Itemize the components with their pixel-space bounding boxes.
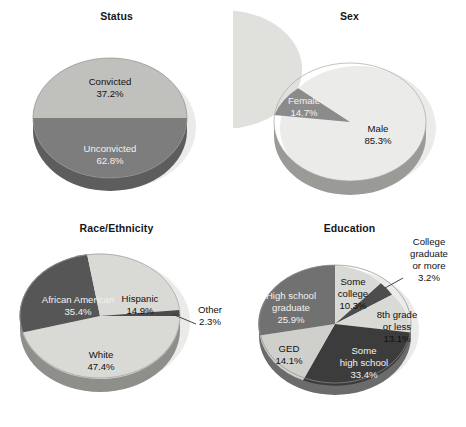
panel-race-ethnicity: Race/Ethnicity African American 35.4% Hi…	[0, 222, 233, 427]
label-some-college-line2: college	[338, 288, 368, 299]
label-male-name: Male	[368, 123, 389, 134]
label-hs-grad-line1: High school	[266, 290, 316, 301]
panel-education: Education Some college 10.3% College	[233, 222, 466, 427]
label-unconvicted-value: 62.8%	[96, 155, 124, 166]
sex-pie-svg: Female 14.7% Male 85.3%	[233, 10, 466, 213]
label-8th-grade-line1: 8th grade	[377, 309, 418, 320]
label-hs-grad-line2: graduate	[272, 302, 310, 313]
status-pie-svg: Convicted 37.2% Unconvicted 62.8%	[0, 10, 233, 213]
label-hispanic-value: 14.9%	[126, 305, 154, 316]
panel-status: Status Convicted 37.2% Unconvicted 62.8%	[0, 10, 233, 213]
label-female-name: Female	[288, 95, 320, 106]
label-college-grad-line2: graduate	[410, 248, 448, 259]
education-pie-svg: Some college 10.3% College graduate or m…	[233, 222, 466, 427]
label-college-grad-line3: or more	[412, 260, 445, 271]
label-convicted-name: Convicted	[89, 76, 132, 87]
label-some-hs-value: 33.4%	[350, 369, 378, 380]
label-unconvicted-name: Unconvicted	[84, 143, 137, 154]
label-male-value: 85.3%	[364, 135, 392, 146]
label-white-value: 47.4%	[87, 361, 115, 372]
label-white-name: White	[89, 349, 114, 360]
label-hs-grad-value: 25.9%	[277, 314, 305, 325]
label-some-hs-line1: Some	[351, 345, 376, 356]
label-8th-grade-value: 13.1%	[383, 333, 411, 344]
label-8th-grade-line2: or less	[383, 321, 411, 332]
label-ged-name: GED	[279, 343, 300, 354]
panel-sex: Sex Female 14.7% Male 85.3%	[233, 10, 466, 213]
label-hispanic-name: Hispanic	[122, 293, 159, 304]
label-african-american-value: 35.4%	[64, 306, 92, 317]
label-african-american-name: African American	[42, 294, 115, 305]
pie-chart-figure: Status Convicted 37.2% Unconvicted 62.8%…	[0, 0, 466, 427]
label-other-name: Other	[198, 304, 223, 315]
label-female-value: 14.7%	[290, 107, 318, 118]
label-convicted-value: 37.2%	[96, 88, 124, 99]
label-ged-value: 14.1%	[275, 355, 303, 366]
label-some-college-value: 10.3%	[339, 300, 367, 311]
label-some-hs-line2: high school	[340, 357, 389, 368]
label-college-grad-line1: College	[413, 236, 446, 247]
label-other-value: 2.3%	[199, 316, 221, 327]
label-some-college-line1: Some	[340, 276, 365, 287]
race-pie-svg: African American 35.4% Hispanic 14.9% Ot…	[0, 222, 233, 427]
label-college-grad-value: 3.2%	[418, 272, 440, 283]
